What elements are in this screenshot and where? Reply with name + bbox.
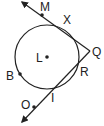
geometry-diagram: M X Q L R B I O bbox=[0, 0, 104, 126]
secant-ray-QO bbox=[22, 51, 90, 122]
label-L: L bbox=[36, 51, 43, 65]
label-R: R bbox=[80, 65, 89, 79]
label-O: O bbox=[21, 98, 30, 112]
tangent-ray-QM bbox=[22, 2, 90, 51]
label-I: I bbox=[51, 91, 54, 105]
label-Q: Q bbox=[92, 45, 101, 59]
point-L-dot bbox=[45, 55, 49, 59]
point-O-dot bbox=[32, 105, 36, 109]
label-B: B bbox=[6, 69, 14, 83]
label-X: X bbox=[63, 13, 71, 27]
point-B-dot bbox=[18, 72, 22, 76]
label-M: M bbox=[40, 0, 50, 14]
